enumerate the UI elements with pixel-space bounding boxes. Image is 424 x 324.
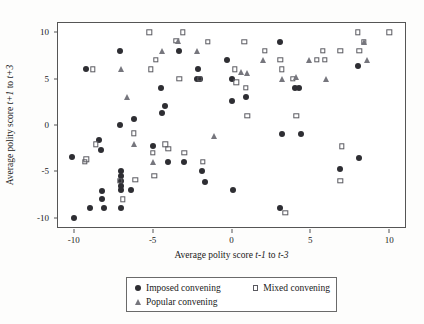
data-point-triangle <box>364 57 370 63</box>
data-point-square <box>166 146 171 151</box>
data-point-triangle <box>131 141 137 147</box>
y-axis-tick <box>54 217 58 218</box>
data-point-circle <box>101 205 107 211</box>
data-point-square <box>147 30 152 35</box>
data-point-square <box>181 150 186 155</box>
data-point-triangle <box>211 133 217 139</box>
data-point-circle <box>298 131 304 137</box>
data-point-circle <box>279 131 285 137</box>
data-point-circle <box>87 205 93 211</box>
data-point-square <box>177 76 182 81</box>
data-point-square <box>279 67 284 72</box>
data-point-triangle <box>361 39 367 45</box>
data-point-circle <box>202 179 208 185</box>
plot-area: -10-50510-10-50510 <box>57 22 406 228</box>
y-axis-tick <box>54 32 58 33</box>
data-point-square <box>153 57 158 62</box>
data-point-circle <box>277 39 283 45</box>
data-point-circle <box>224 57 230 63</box>
data-point-circle <box>83 66 89 72</box>
data-point-circle <box>158 85 164 91</box>
data-point-circle <box>229 98 235 104</box>
data-point-square <box>293 113 298 118</box>
x-axis-tick-label: 10 <box>385 235 394 245</box>
legend-row-1: Imposed convening Mixed convening <box>133 281 330 295</box>
data-point-circle <box>181 159 187 165</box>
data-point-triangle <box>118 66 124 72</box>
x-axis-tick-label: 5 <box>308 235 313 245</box>
data-point-square <box>339 144 344 149</box>
x-axis-tick <box>73 229 74 233</box>
y-axis-tick-label: 10 <box>40 27 49 37</box>
data-point-circle <box>150 143 156 149</box>
y-axis-tick <box>54 78 58 79</box>
data-point-square <box>84 157 89 162</box>
data-point-circle <box>165 159 171 165</box>
data-point-square <box>200 159 205 164</box>
data-point-square <box>232 67 237 72</box>
legend-label-imposed-convening: Imposed convening <box>146 283 221 293</box>
data-point-circle <box>356 155 362 161</box>
data-point-circle <box>199 168 205 174</box>
data-point-square <box>205 39 210 44</box>
data-point-circle <box>118 205 124 211</box>
data-point-square <box>234 80 239 85</box>
data-point-circle <box>131 116 137 122</box>
x-axis-title: Average polity score t-1 to t-3 <box>57 250 406 260</box>
data-point-circle <box>176 48 182 54</box>
data-point-square <box>282 210 287 215</box>
legend-box: Imposed convening Mixed convening Popula… <box>126 277 337 312</box>
data-point-square <box>120 196 125 201</box>
x-axis-tick <box>231 229 232 233</box>
data-point-circle <box>243 94 249 100</box>
data-point-triangle <box>244 70 250 76</box>
data-point-triangle <box>238 69 244 75</box>
data-point-circle <box>98 147 104 153</box>
data-point-square <box>262 48 267 53</box>
data-point-square <box>148 67 153 72</box>
data-point-square <box>314 57 319 62</box>
data-point-triangle <box>124 94 130 100</box>
data-point-circle <box>117 48 123 54</box>
scatter-plot-figure: Average polity score t+1 to t+3 -10-5051… <box>0 0 424 324</box>
data-point-circle <box>355 63 361 69</box>
data-point-circle <box>296 85 302 91</box>
data-point-triangle <box>293 74 299 80</box>
data-point-triangle <box>159 48 165 54</box>
y-axis-tick-label: -10 <box>37 213 49 223</box>
data-point-circle <box>128 187 134 193</box>
data-points-layer <box>58 23 405 227</box>
data-point-square <box>322 57 327 62</box>
legend-label-mixed-convening: Mixed convening <box>263 283 330 293</box>
data-point-triangle <box>260 57 266 63</box>
y-axis-title: Average polity score t+1 to t+3 <box>5 65 15 186</box>
data-point-triangle <box>194 48 200 54</box>
data-point-circle <box>337 166 343 172</box>
data-point-triangle <box>306 57 312 63</box>
data-point-square <box>338 178 343 183</box>
data-point-circle <box>69 154 75 160</box>
data-point-circle <box>99 188 105 194</box>
x-axis-tick <box>389 229 390 233</box>
data-point-square <box>357 48 362 53</box>
x-axis-tick-label: -10 <box>68 235 80 245</box>
data-point-square <box>152 173 157 178</box>
data-point-square <box>278 57 283 62</box>
square-marker-icon <box>250 285 260 290</box>
data-point-triangle <box>150 159 156 165</box>
data-point-triangle <box>175 38 181 44</box>
data-point-square <box>338 48 343 53</box>
data-point-circle <box>195 66 201 72</box>
data-point-triangle <box>323 76 329 82</box>
x-axis-tick-label: 0 <box>229 235 234 245</box>
y-axis-tick-label: 5 <box>45 74 50 84</box>
data-point-circle <box>162 103 168 109</box>
data-point-square <box>197 76 202 81</box>
data-point-square <box>131 131 136 136</box>
legend-entry-popular-convening: Popular convening <box>133 297 251 307</box>
data-point-circle <box>99 196 105 202</box>
y-axis-tick <box>54 171 58 172</box>
x-axis-tick <box>152 229 153 233</box>
data-point-square <box>93 142 98 147</box>
data-point-square <box>243 85 248 90</box>
